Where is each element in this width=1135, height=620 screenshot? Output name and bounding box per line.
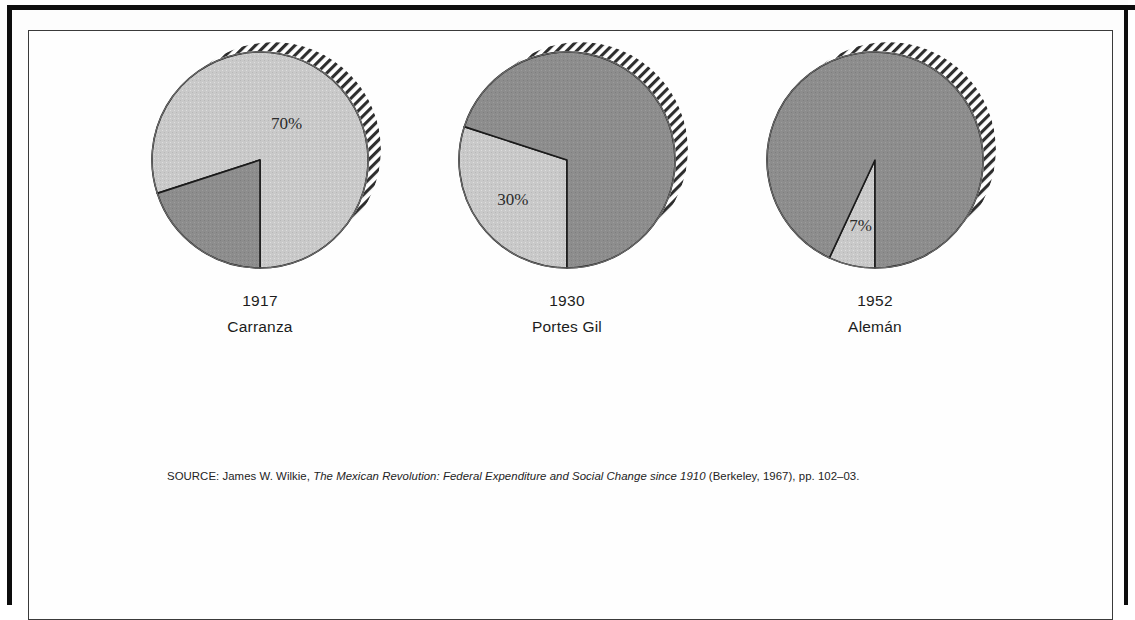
pie-chart-row: 70%1917Carranza30%1930Portes Gil7%1952Al… bbox=[28, 30, 1113, 470]
pie-year-label: 1952 bbox=[745, 292, 1005, 310]
slice-percent-label: 70% bbox=[271, 114, 302, 133]
pie-president-label: Carranza bbox=[130, 318, 390, 336]
source-label: SOURCE: James W. Wilkie, bbox=[167, 470, 313, 482]
pie-graphic: 30% bbox=[437, 30, 697, 290]
pie-chart-1917: 70%1917Carranza bbox=[130, 30, 390, 470]
pie-slice-remainder bbox=[767, 52, 983, 268]
source-citation: SOURCE: James W. Wilkie, The Mexican Rev… bbox=[167, 470, 1067, 482]
pie-president-label: Portes Gil bbox=[437, 318, 697, 336]
outer-border-right bbox=[1124, 5, 1128, 605]
slice-percent-label: 30% bbox=[497, 190, 528, 209]
pie-president-label: Alemán bbox=[745, 318, 1005, 336]
pie-year-label: 1917 bbox=[130, 292, 390, 310]
pie-chart-1952: 7%1952Alemán bbox=[745, 30, 1005, 470]
source-title: The Mexican Revolution: Federal Expendit… bbox=[313, 470, 705, 482]
slice-percent-label: 7% bbox=[849, 216, 872, 235]
pie-graphic: 70% bbox=[130, 30, 390, 290]
pie-year-label: 1930 bbox=[437, 292, 697, 310]
pie-graphic: 7% bbox=[745, 30, 1005, 290]
pie-chart-1930: 30%1930Portes Gil bbox=[437, 30, 697, 470]
source-tail: (Berkeley, 1967), pp. 102–03. bbox=[706, 470, 860, 482]
